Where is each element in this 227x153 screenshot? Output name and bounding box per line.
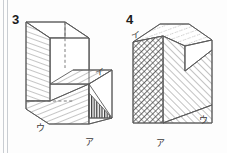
figure-4-front-face [133, 36, 163, 123]
figure-4-label-u: ウ [199, 115, 208, 125]
figure-3-number: 3 [12, 12, 19, 27]
figure-4-label-a: ア [156, 138, 165, 148]
figure-4-label-i: イ [131, 30, 140, 40]
figure-sheet: 3 イ ウ ア [0, 0, 227, 153]
figure-3-label-i: イ [95, 67, 104, 77]
figure-4-number: 4 [126, 12, 134, 27]
figures-canvas: 3 イ ウ ア [0, 0, 227, 153]
figure-3-label-a: ア [85, 137, 94, 147]
figure-3-label-u: ウ [36, 123, 45, 133]
